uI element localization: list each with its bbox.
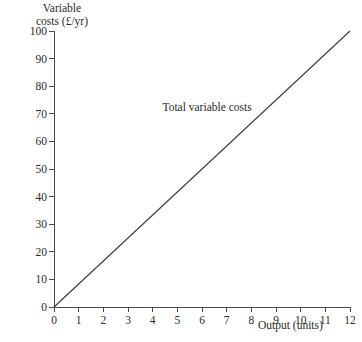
x-tick-label: 1 xyxy=(71,314,87,326)
y-tick-label: 40 xyxy=(21,191,47,203)
y-tick-label: 10 xyxy=(21,273,47,285)
x-axis-title: Output (units) xyxy=(258,319,323,332)
chart-container: Variable costs (£/yr) 010203040506070809… xyxy=(0,0,362,342)
x-tick-label: 8 xyxy=(243,314,259,326)
x-tick-label: 0 xyxy=(46,314,62,326)
y-tick-label: 100 xyxy=(21,25,47,37)
series-line-total-variable-costs xyxy=(54,31,350,307)
x-tick-label: 7 xyxy=(219,314,235,326)
plot-area xyxy=(0,0,362,342)
y-tick-label: 70 xyxy=(21,108,47,120)
x-tick-label: 3 xyxy=(120,314,136,326)
x-tick-label: 4 xyxy=(145,314,161,326)
y-tick-label: 20 xyxy=(21,246,47,258)
y-tick-marks xyxy=(49,31,54,307)
x-tick-label: 12 xyxy=(342,314,358,326)
x-tick-label: 6 xyxy=(194,314,210,326)
y-tick-label: 90 xyxy=(21,53,47,65)
x-tick-marks xyxy=(54,307,350,312)
y-tick-label: 0 xyxy=(21,301,47,313)
data-series-group xyxy=(54,31,350,307)
y-tick-label: 50 xyxy=(21,163,47,175)
x-tick-label: 5 xyxy=(169,314,185,326)
y-tick-label: 60 xyxy=(21,135,47,147)
series-annotation: Total variable costs xyxy=(162,101,251,114)
x-tick-label: 2 xyxy=(95,314,111,326)
y-tick-label: 80 xyxy=(21,80,47,92)
y-tick-label: 30 xyxy=(21,218,47,230)
